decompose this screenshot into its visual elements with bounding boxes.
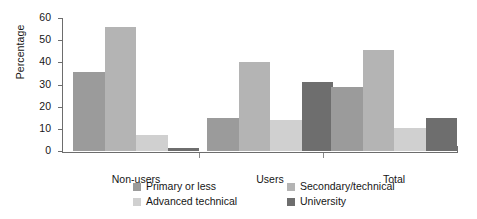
y-axis-tick-label: 50 <box>39 33 51 45</box>
x-axis-endcap <box>457 146 458 153</box>
chart-bar <box>207 118 239 151</box>
legend-item-label: Secondary/technical <box>300 181 395 192</box>
y-axis-line <box>62 18 63 153</box>
y-axis-tick-label: 0 <box>45 144 51 156</box>
legend-swatch-icon <box>133 183 141 191</box>
bar-chart-figure: Percentage 0102030405060 Non-usersUsersT… <box>0 0 477 219</box>
plot-area: 0102030405060 Non-usersUsersTotal <box>62 18 458 152</box>
chart-bar <box>363 50 395 151</box>
legend-item-university: University <box>287 194 395 209</box>
chart-bar <box>136 135 168 151</box>
legend-swatch-icon <box>287 198 295 206</box>
legend-item-label: Primary or less <box>146 181 216 192</box>
y-axis-tick: 30 <box>58 85 62 86</box>
x-axis-endcap <box>62 146 63 153</box>
y-axis-title: Percentage <box>14 0 26 112</box>
y-axis-tick-label: 30 <box>39 78 51 90</box>
y-axis-tick-label: 20 <box>39 100 51 112</box>
x-axis-tick <box>323 153 324 158</box>
chart-bar <box>331 87 363 151</box>
y-axis-tick: 60 <box>58 18 62 19</box>
chart-bar <box>105 27 137 151</box>
y-axis-tick: 10 <box>58 129 62 130</box>
y-axis-tick-label: 40 <box>39 55 51 67</box>
legend-item-label: University <box>300 196 346 207</box>
y-axis-tick-label: 60 <box>39 11 51 23</box>
legend-swatch-icon <box>133 198 141 206</box>
chart-bar <box>426 118 458 151</box>
chart-bar <box>239 62 271 151</box>
x-axis-tick <box>199 153 200 158</box>
y-axis-tick: 40 <box>58 62 62 63</box>
chart-bar <box>73 72 105 151</box>
chart-bar <box>168 148 200 151</box>
legend-item-advanced-technical: Advanced technical <box>133 194 283 209</box>
y-axis-tick: 20 <box>58 107 62 108</box>
legend-swatch-icon <box>287 183 295 191</box>
chart-legend: Primary or less Secondary/technical Adva… <box>133 179 395 209</box>
chart-bar <box>302 82 334 151</box>
y-axis-tick-label: 10 <box>39 122 51 134</box>
x-axis-line <box>62 152 458 153</box>
legend-item-label: Advanced technical <box>146 196 237 207</box>
y-axis-tick: 50 <box>58 40 62 41</box>
legend-item-primary-or-less: Primary or less <box>133 179 283 194</box>
legend-item-secondary-technical: Secondary/technical <box>287 179 395 194</box>
chart-bar <box>270 120 302 151</box>
chart-bar <box>394 128 426 151</box>
